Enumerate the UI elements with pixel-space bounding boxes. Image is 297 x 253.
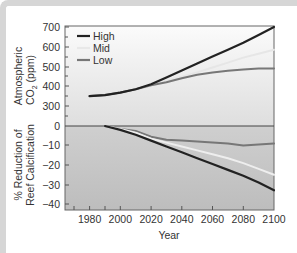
top-y-axis-title-line1: Atmospheric	[12, 47, 24, 105]
bottom-y-tick-labels: −10 −20 −30 −40	[42, 139, 60, 210]
bottom-plot-area	[65, 126, 274, 210]
tick-600: 600	[42, 41, 60, 53]
bottom-y-axis-title-line2: Reef Calcification	[24, 124, 36, 206]
tick-2000: 2000	[109, 213, 133, 225]
top-y-axis-title: Atmospheric CO2 (ppm)	[12, 47, 38, 105]
legend-high-label: High	[93, 30, 115, 42]
top-y-axis-title-line2: CO2 (ppm)	[24, 55, 38, 105]
top-y-tick-labels: 700 600 500 400 300 0	[42, 21, 60, 132]
tick-1980: 1980	[78, 213, 102, 225]
tick-2100: 2100	[262, 213, 286, 225]
legend-low-label: Low	[93, 54, 113, 66]
tick-500: 500	[42, 61, 60, 73]
tick-2060: 2060	[201, 213, 225, 225]
tick-400: 400	[42, 80, 60, 92]
chart-canvas: 700 600 500 400 300 0 −10 −20 −30 −40 19…	[0, 0, 297, 253]
tick-2040: 2040	[170, 213, 194, 225]
legend-mid-label: Mid	[93, 42, 110, 54]
x-axis-title: Year	[158, 229, 180, 241]
tick-700: 700	[42, 21, 60, 33]
tick-0: 0	[54, 120, 60, 132]
bottom-y-axis-title-line1: % Reduction of	[12, 129, 24, 200]
tick-2020: 2020	[139, 213, 163, 225]
tick-2080: 2080	[232, 213, 256, 225]
tick-minus-40: −40	[42, 198, 60, 210]
tick-minus-10: −10	[42, 139, 60, 151]
x-tick-labels: 1980 2000 2020 2040 2060 2080 2100	[78, 213, 286, 225]
tick-minus-20: −20	[42, 159, 60, 171]
legend: High Mid Low	[77, 30, 115, 66]
tick-minus-30: −30	[42, 179, 60, 191]
bottom-y-axis-title: % Reduction of Reef Calcification	[12, 124, 36, 206]
tick-300: 300	[42, 100, 60, 112]
